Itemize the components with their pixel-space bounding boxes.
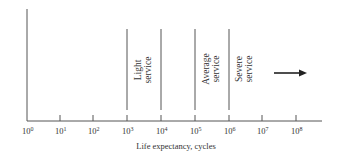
svg-text:102: 102 — [88, 126, 100, 137]
svg-text:101: 101 — [55, 126, 67, 137]
region-label-average: Average service — [201, 53, 221, 84]
svg-text:Average: Average — [201, 53, 211, 84]
svg-text:service: service — [244, 56, 254, 83]
svg-text:100: 100 — [22, 126, 34, 137]
svg-text:107: 107 — [257, 126, 269, 137]
life-expectancy-chart: Light service Average service Severe ser… — [0, 0, 340, 163]
svg-text:106: 106 — [224, 126, 236, 137]
x-tick-labels: 100 101 102 103 104 105 106 107 108 — [22, 126, 303, 137]
svg-text:104: 104 — [156, 126, 168, 137]
svg-text:Light: Light — [133, 59, 143, 80]
svg-text:Severe: Severe — [234, 56, 244, 82]
region-label-severe: Severe service — [234, 56, 254, 83]
svg-text:103: 103 — [122, 126, 134, 137]
svg-text:service: service — [143, 57, 153, 84]
x-ticks — [60, 115, 296, 121]
region-label-light: Light service — [133, 57, 153, 84]
svg-text:108: 108 — [291, 126, 303, 137]
svg-text:service: service — [211, 56, 221, 83]
x-axis-label: Life expectancy, cycles — [136, 141, 215, 151]
svg-text:105: 105 — [190, 126, 202, 137]
arrow-right-icon — [274, 70, 307, 77]
